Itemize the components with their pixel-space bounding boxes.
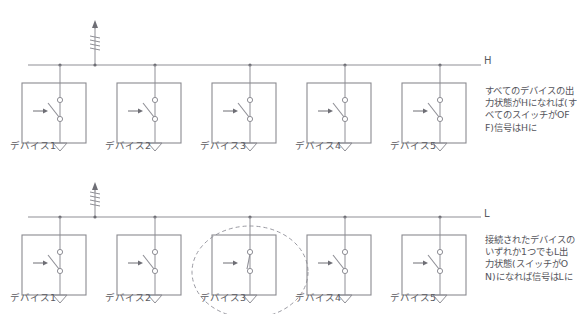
- bus-junction-pullup-bottom: [93, 215, 96, 218]
- device-bottom-4: [307, 217, 371, 303]
- device-top-2-switch-blade: [143, 103, 154, 117]
- device-bottom-3-terminal-upper: [247, 249, 252, 254]
- device-bottom-4-terminal-lower: [342, 268, 347, 273]
- device-bottom-5: [402, 217, 466, 303]
- device-bottom-3-terminal-lower: [247, 268, 252, 273]
- device-bottom-3-box: [212, 235, 276, 295]
- device-bottom-5-terminal-upper: [437, 249, 442, 254]
- device-top-4-terminal-upper: [342, 97, 347, 102]
- device-top-2-terminal-upper: [152, 97, 157, 102]
- device-bottom-2-terminal-lower: [152, 268, 157, 273]
- device-top-5-control-arrow-head: [423, 109, 428, 114]
- device-bottom-2: [117, 217, 181, 303]
- device-bottom-5-control-arrow-head: [423, 261, 428, 266]
- device-top-4-terminal-lower: [342, 116, 347, 121]
- device-bottom-3: [212, 217, 276, 303]
- device-top-2: [117, 65, 181, 151]
- device-top-4: [307, 65, 371, 151]
- device-top-2-terminal-lower: [152, 116, 157, 121]
- device-top-3-control-arrow-head: [233, 109, 238, 114]
- device-bottom-5-box: [402, 235, 466, 295]
- device-top-5: [402, 65, 466, 151]
- device-top-3-box: [212, 83, 276, 143]
- device-top-4-control-arrow-head: [328, 109, 333, 114]
- device-bottom-1-box: [22, 235, 86, 295]
- device-label-top-4: デバイス4: [295, 140, 341, 151]
- device-label-bottom-1: デバイス1: [10, 292, 56, 303]
- device-bottom-1-switch-blade: [48, 255, 59, 269]
- vcc-arrow-head-bottom: [92, 182, 98, 190]
- rail-label-l: L: [484, 208, 490, 219]
- device-top-5-terminal-upper: [437, 97, 442, 102]
- device-bottom-2-control-arrow-head: [138, 261, 143, 266]
- device-top-1-terminal-lower: [57, 116, 62, 121]
- device-bottom-4-box: [307, 235, 371, 295]
- device-label-top-2: デバイス2: [105, 140, 151, 151]
- device-bottom-2-terminal-upper: [152, 249, 157, 254]
- device-label-bottom-3: デバイス3: [200, 292, 246, 303]
- device-bottom-5-switch-blade: [428, 255, 439, 269]
- device-top-1-box: [22, 83, 86, 143]
- device-label-top-3: デバイス3: [200, 140, 246, 151]
- device-label-bottom-4: デバイス4: [295, 292, 341, 303]
- device-top-5-box: [402, 83, 466, 143]
- device-bottom-4-switch-blade: [333, 255, 344, 269]
- device-bottom-1-control-arrow-head: [43, 261, 48, 266]
- device-top-1-terminal-upper: [57, 97, 62, 102]
- device-top-1-control-arrow-head: [43, 109, 48, 114]
- device-bottom-4-control-arrow-head: [328, 261, 333, 266]
- device-bottom-3-control-arrow-head: [233, 261, 238, 266]
- vcc-arrow-head-top: [92, 20, 98, 28]
- device-top-3-terminal-lower: [247, 116, 252, 121]
- note-bottom: 接続されたデバイスのいずれか1つでもL出力状態(スイッチがON)になれば信号はL…: [485, 234, 577, 283]
- device-top-4-box: [307, 83, 371, 143]
- device-bottom-1: [22, 217, 86, 303]
- device-label-bottom-5: デバイス5: [390, 292, 436, 303]
- device-top-4-switch-blade: [333, 103, 344, 117]
- bus-junction-pullup-top: [93, 63, 96, 66]
- device-top-3: [212, 65, 276, 151]
- device-top-3-terminal-upper: [247, 97, 252, 102]
- device-bottom-4-terminal-upper: [342, 249, 347, 254]
- section-top: [22, 20, 481, 151]
- device-label-bottom-2: デバイス2: [105, 292, 151, 303]
- device-bottom-1-terminal-lower: [57, 268, 62, 273]
- device-top-5-switch-blade: [428, 103, 439, 117]
- device-label-top-1: デバイス1: [10, 140, 56, 151]
- device-top-1-switch-blade: [48, 103, 59, 117]
- device-top-2-box: [117, 83, 181, 143]
- device-bottom-2-box: [117, 235, 181, 295]
- device-label-top-5: デバイス5: [390, 140, 436, 151]
- device-bottom-1-terminal-upper: [57, 249, 62, 254]
- device-bottom-5-terminal-lower: [437, 268, 442, 273]
- device-top-5-terminal-lower: [437, 116, 442, 121]
- device-top-1: [22, 65, 86, 151]
- device-bottom-2-switch-blade: [143, 255, 154, 269]
- rail-label-h: H: [484, 55, 492, 66]
- note-top: すべてのデバイスの出力状態がHになれば(すべてのスイッチがOFF)信号はHに: [485, 85, 577, 134]
- device-top-3-switch-blade: [238, 103, 249, 117]
- device-top-2-control-arrow-head: [138, 109, 143, 114]
